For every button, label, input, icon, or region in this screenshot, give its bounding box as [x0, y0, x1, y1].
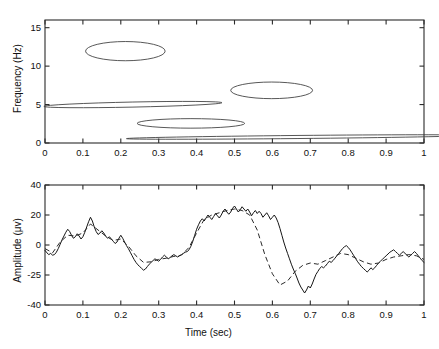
- x-tick-label-top: 0.3: [144, 147, 174, 158]
- x-tick-label-top: 0.2: [106, 147, 136, 158]
- x-tick-label-top: 0: [30, 147, 60, 158]
- y-tick-label-bottom: 0: [11, 239, 41, 250]
- trace-model-fit: [45, 209, 424, 285]
- x-tick-label-top: 0.8: [333, 147, 363, 158]
- x-tick-label-bottom: 0.5: [220, 309, 250, 320]
- x-tick-label-top: 0.6: [257, 147, 287, 158]
- y-tick-label-bottom: -40: [11, 299, 41, 310]
- trace-measured-signal: [45, 206, 424, 293]
- x-tick-label-top: 0.1: [68, 147, 98, 158]
- y-tick-label-top: 15: [11, 22, 41, 33]
- x-tick-label-top: 1: [409, 147, 439, 158]
- amplitude-frame: [45, 185, 424, 305]
- x-tick-label-top: 0.4: [182, 147, 212, 158]
- x-tick-label-bottom: 0.1: [68, 309, 98, 320]
- x-tick-label-bottom: 0.2: [106, 309, 136, 320]
- y-tick-label-bottom: -25: [11, 269, 41, 280]
- y-tick-label-top: 5: [11, 99, 41, 110]
- x-tick-label-bottom: 0.3: [144, 309, 174, 320]
- time-axis-label: Time (sec): [185, 327, 232, 338]
- y-tick-label-top: 0: [11, 137, 41, 148]
- x-tick-label-bottom: 1: [409, 309, 439, 320]
- x-tick-label-bottom: 0.7: [295, 309, 325, 320]
- y-tick-label-top: 10: [11, 60, 41, 71]
- x-tick-label-top: 0.7: [295, 147, 325, 158]
- x-tick-label-bottom: 0: [30, 309, 60, 320]
- x-tick-label-bottom: 0.9: [371, 309, 401, 320]
- x-tick-label-bottom: 0.6: [257, 309, 287, 320]
- x-tick-label-bottom: 0.8: [333, 309, 363, 320]
- x-tick-label-top: 0.5: [220, 147, 250, 158]
- y-tick-label-bottom: 20: [11, 209, 41, 220]
- y-tick-label-bottom: 40: [11, 179, 41, 190]
- x-tick-label-bottom: 0.4: [182, 309, 212, 320]
- x-tick-label-top: 0.9: [371, 147, 401, 158]
